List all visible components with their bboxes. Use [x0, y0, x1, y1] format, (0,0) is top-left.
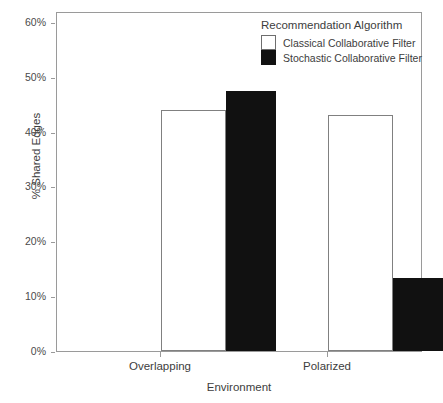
y-axis-tick-mark: [51, 23, 55, 24]
y-axis-tick-mark: [51, 297, 55, 298]
y-axis-label: % Shared Edges: [30, 76, 42, 236]
legend-entries: Classical Collaborative FilterStochastic…: [261, 35, 421, 65]
legend-entry: Classical Collaborative Filter: [261, 35, 421, 50]
legend-entry-label: Classical Collaborative Filter: [283, 37, 415, 49]
bar-polarized-stochastic: [393, 278, 443, 351]
y-axis-tick-label: 10%: [25, 290, 46, 302]
legend: Recommendation Algorithm Classical Colla…: [261, 19, 421, 65]
bar-polarized-classical: [328, 115, 393, 351]
x-axis-tick-mark: [160, 352, 161, 357]
y-axis-tick-mark: [51, 352, 55, 353]
x-axis-tick-label: Overlapping: [100, 360, 220, 372]
legend-swatch-dark: [261, 50, 276, 65]
y-axis-tick-label: 50%: [25, 71, 46, 83]
bar-overlapping-classical: [161, 110, 226, 351]
y-axis-tick-label: 40%: [25, 126, 46, 138]
x-axis-tick-label: Polarized: [267, 360, 387, 372]
y-axis-tick-label: 0%: [31, 345, 46, 357]
legend-entry-label: Stochastic Collaborative Filter: [283, 52, 422, 64]
legend-swatch-light: [261, 35, 276, 50]
y-axis-tick-label: 30%: [25, 180, 46, 192]
bar-overlapping-stochastic: [226, 91, 276, 351]
plot-panel: Recommendation Algorithm Classical Colla…: [56, 12, 422, 352]
y-axis-tick-mark: [51, 78, 55, 79]
y-axis-tick-mark: [51, 133, 55, 134]
legend-entry: Stochastic Collaborative Filter: [261, 50, 421, 65]
y-axis-tick-label: 20%: [25, 235, 46, 247]
y-axis-tick-label: 60%: [25, 16, 46, 28]
y-axis-tick-mark: [51, 187, 55, 188]
legend-title: Recommendation Algorithm: [261, 19, 421, 31]
x-axis-tick-mark: [327, 352, 328, 357]
y-axis-tick-mark: [51, 242, 55, 243]
x-axis-label: Environment: [56, 381, 422, 393]
